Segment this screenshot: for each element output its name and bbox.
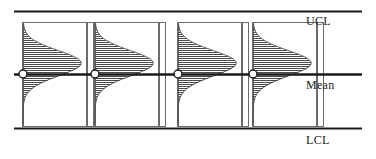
histogram-bar <box>95 32 98 33</box>
histogram-bar <box>23 50 57 51</box>
histogram-bar <box>95 78 125 79</box>
histogram-bar <box>23 40 34 41</box>
histogram-bar <box>23 46 46 47</box>
histogram-bar <box>95 62 153 63</box>
histogram-bar <box>178 40 189 41</box>
histogram-bar <box>253 64 311 65</box>
histogram-bar <box>178 62 236 63</box>
histogram-bar <box>95 44 113 45</box>
histogram-bar <box>23 32 26 33</box>
histogram-bar <box>95 46 118 47</box>
histogram-bar <box>95 40 106 41</box>
histogram-bar <box>178 50 212 51</box>
histogram-bar <box>95 42 109 43</box>
histogram-bar <box>178 66 235 67</box>
histogram-bar <box>178 36 184 37</box>
histogram-bar <box>23 48 51 49</box>
histogram-bar <box>95 38 103 39</box>
histogram-bar <box>253 68 307 69</box>
histogram-bar <box>178 72 224 73</box>
histogram-bar <box>253 76 288 77</box>
histogram-bar <box>253 50 287 51</box>
histogram-bar <box>178 54 223 55</box>
histogram-bar <box>95 34 99 35</box>
spc-control-chart: UCL Mean LCL <box>0 0 376 159</box>
histogram-bar <box>178 48 206 49</box>
histogram-bar <box>23 64 81 65</box>
histogram-bar <box>23 60 80 61</box>
histogram-bar <box>95 58 149 59</box>
histogram-bar <box>253 60 310 61</box>
ucl-label: UCL <box>306 14 331 29</box>
histogram-bar <box>95 64 153 65</box>
histogram-bar <box>23 42 37 43</box>
mean-label: Mean <box>306 78 335 93</box>
histogram-bar <box>178 44 196 45</box>
histogram-bar <box>23 38 31 39</box>
histogram-bar <box>178 68 232 69</box>
histogram-bar <box>253 72 299 73</box>
histogram-bar <box>95 68 149 69</box>
histogram-bar <box>23 44 41 45</box>
histogram-bar <box>23 56 73 57</box>
histogram-bar <box>253 70 303 71</box>
histogram-bar <box>95 80 120 81</box>
histogram-bar <box>23 54 68 55</box>
histogram-bar <box>253 32 256 33</box>
histogram-bar <box>178 52 217 53</box>
histogram-bar <box>23 76 58 77</box>
histogram-bar <box>23 72 69 73</box>
histogram-bar <box>95 72 141 73</box>
histogram-bar <box>23 80 48 81</box>
histogram-bar <box>23 68 77 69</box>
histogram-bar <box>95 56 145 57</box>
histogram-bar <box>178 56 228 57</box>
histogram-bar <box>23 34 27 35</box>
histogram-bar <box>178 78 208 79</box>
histogram-bar <box>95 36 101 37</box>
histogram-bar <box>253 48 281 49</box>
lcl-label: LCL <box>306 133 330 148</box>
histogram-bar <box>253 36 259 37</box>
histogram-bar <box>95 60 152 61</box>
histogram-bar <box>178 46 201 47</box>
histogram-bar <box>253 40 264 41</box>
histogram-bar <box>23 78 53 79</box>
histogram-bar <box>95 50 129 51</box>
histogram-bar <box>23 82 43 83</box>
histogram-bar <box>95 82 115 83</box>
histogram-bar <box>178 64 236 65</box>
histogram-bar <box>253 54 298 55</box>
histogram-bar <box>253 56 303 57</box>
histogram-bar <box>95 70 145 71</box>
histogram-bar <box>253 46 276 47</box>
histogram-bar <box>178 70 228 71</box>
histogram-bar <box>23 36 29 37</box>
histogram-bar <box>23 66 80 67</box>
histogram-bar <box>253 38 261 39</box>
histogram-bar <box>253 58 307 59</box>
histogram-bar <box>23 70 73 71</box>
histogram-bar <box>253 82 273 83</box>
histogram-bar <box>253 80 278 81</box>
histogram-bar <box>178 32 181 33</box>
histogram-bar <box>178 58 232 59</box>
histogram-bar <box>253 34 257 35</box>
subgroup-marker-2 <box>91 70 99 78</box>
subgroup-marker-4 <box>249 70 257 78</box>
histogram-bar <box>178 42 192 43</box>
histogram-bar <box>253 62 311 63</box>
histogram-bar <box>95 54 140 55</box>
histogram-bar <box>23 62 81 63</box>
histogram-bar <box>95 52 134 53</box>
histogram-bar <box>178 80 203 81</box>
histogram-bar <box>95 76 130 77</box>
histogram-bar <box>95 48 123 49</box>
histogram-bar <box>178 38 186 39</box>
histogram-bar <box>23 52 62 53</box>
histogram-bar <box>178 60 235 61</box>
subgroup-marker-1 <box>19 70 27 78</box>
histogram-bar <box>253 44 271 45</box>
histogram-bar <box>178 34 182 35</box>
subgroup-marker-3 <box>174 70 182 78</box>
